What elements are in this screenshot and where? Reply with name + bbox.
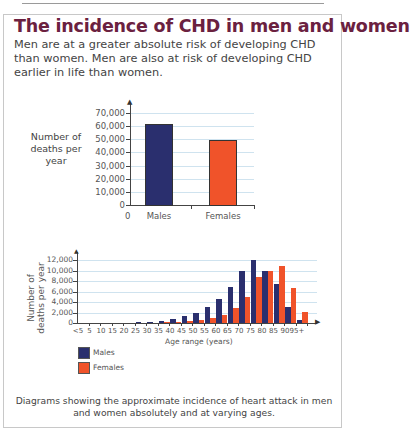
chart2-xtick bbox=[89, 323, 90, 326]
chart2-y-axis bbox=[77, 252, 78, 323]
chart2-ytick-label: 2,000 bbox=[30, 308, 73, 317]
chart2-xtick bbox=[296, 323, 297, 326]
chart2-bar-males bbox=[147, 322, 153, 323]
chart1-xtick bbox=[254, 205, 255, 209]
chart2-xtick bbox=[169, 323, 170, 326]
chart1-xtick bbox=[191, 205, 192, 209]
chart2-xtick bbox=[112, 323, 113, 326]
legend-label-females: Females bbox=[93, 363, 124, 372]
chart2-bar-females bbox=[210, 318, 216, 323]
chart1-bar-males bbox=[146, 125, 172, 205]
chart2-xtick bbox=[204, 323, 205, 326]
chart1-ytick-label: 20,000 bbox=[80, 174, 125, 184]
chart1-ytick-label: 30,000 bbox=[80, 161, 125, 171]
chart2-x-label: 95+ bbox=[290, 327, 304, 335]
chart2-y-arrow: ▲ bbox=[74, 247, 79, 254]
chart2-x-arrow: ▶ bbox=[315, 318, 320, 326]
chart2-bar-females bbox=[199, 320, 205, 323]
chart2-ytick-label: 12,000 bbox=[30, 255, 73, 264]
legend-swatch-females bbox=[78, 362, 90, 374]
chart2-ytick-label: 0 bbox=[30, 318, 73, 327]
chart1-ytick-label: 70,000 bbox=[80, 108, 125, 118]
chart2-xtick bbox=[100, 323, 101, 326]
chart2-xtick bbox=[273, 323, 274, 326]
legend-label-males: Males bbox=[93, 348, 115, 357]
chart1-ytick-label: 60,000 bbox=[80, 121, 125, 131]
chart1-ytick-label: 0 bbox=[80, 200, 125, 210]
chart2-ytick-label: 8,000 bbox=[30, 276, 73, 285]
chart2-xtick bbox=[307, 323, 308, 326]
chart2-x-title: Age range (years) bbox=[165, 337, 233, 346]
chart2-xtick bbox=[227, 323, 228, 326]
chart2-bar-females bbox=[279, 266, 285, 323]
chart2-xtick bbox=[135, 323, 136, 326]
legend-swatch-males bbox=[78, 347, 90, 359]
page-title: The incidence of CHD in men and women bbox=[14, 16, 410, 36]
chart2-xtick bbox=[192, 323, 193, 326]
top-rule bbox=[22, 3, 324, 4]
chart1-gridline bbox=[130, 113, 254, 114]
chart2-bar-females bbox=[222, 315, 228, 323]
chart2-xtick bbox=[261, 323, 262, 326]
chart2-xtick bbox=[215, 323, 216, 326]
chart2-bar-females bbox=[302, 312, 308, 323]
chart1-y-arrow: ▲ bbox=[127, 98, 132, 106]
chart2-ytick-label: 4,000 bbox=[30, 297, 73, 306]
figure-caption: Diagrams showing the approximate inciden… bbox=[14, 395, 334, 419]
chart2-xtick bbox=[123, 323, 124, 326]
chart2-bar-females bbox=[268, 271, 274, 324]
chart1-y-label: Number of deaths per year bbox=[30, 131, 82, 167]
chart2-bar-females bbox=[164, 322, 170, 323]
chart2-ytick-label: 10,000 bbox=[30, 266, 73, 275]
chart1-x-axis bbox=[130, 205, 254, 206]
chart1-origin-label: 0 bbox=[125, 211, 130, 221]
chart2-xtick bbox=[146, 323, 147, 326]
chart2-x-axis bbox=[77, 323, 317, 324]
chart2-xtick bbox=[284, 323, 285, 326]
chart2-xtick bbox=[181, 323, 182, 326]
chart2-bar-females bbox=[291, 288, 297, 323]
chart2-bar-females bbox=[233, 308, 239, 323]
chart1-y-axis bbox=[130, 103, 131, 205]
chart2-bar-females bbox=[176, 322, 182, 323]
chart1-x-label: Females bbox=[200, 211, 246, 221]
chart2-xtick bbox=[250, 323, 251, 326]
chart2-bar-males bbox=[136, 322, 142, 323]
intro-text: Men are at a greater absolute risk of de… bbox=[14, 38, 334, 80]
chart1-x-label: Males bbox=[136, 211, 182, 221]
chart2-xtick bbox=[158, 323, 159, 326]
chart1-ytick-label: 10,000 bbox=[80, 187, 125, 197]
chart2-bar-females bbox=[187, 321, 193, 323]
chart2-gridline bbox=[77, 260, 317, 261]
chart2-bar-females bbox=[245, 297, 251, 323]
chart1-bar-females bbox=[210, 141, 236, 205]
chart2-bar-females bbox=[256, 277, 262, 323]
chart2-xtick bbox=[238, 323, 239, 326]
chart2-ytick-label: 6,000 bbox=[30, 287, 73, 296]
chart1-ytick-label: 50,000 bbox=[80, 134, 125, 144]
chart1-ytick-label: 40,000 bbox=[80, 147, 125, 157]
